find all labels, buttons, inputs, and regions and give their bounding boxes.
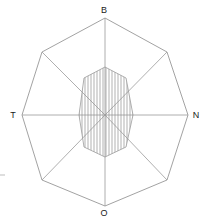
radial-spoke-3 — [105, 115, 167, 180]
direction-label-bottom: O — [100, 208, 107, 218]
figure-root: B N O T — [0, 0, 210, 220]
radial-spoke-7 — [42, 52, 105, 115]
radial-spoke-5 — [42, 115, 105, 180]
radial-spoke-1 — [105, 52, 167, 115]
direction-label-right: N — [193, 110, 200, 120]
direction-label-left: T — [10, 110, 16, 120]
direction-label-top: B — [101, 5, 107, 15]
radial-spokes-group — [22, 18, 188, 206]
octagon-radial-diagram: B N O T — [0, 0, 210, 220]
inner-octagon-hatch-fill — [79, 65, 133, 159]
